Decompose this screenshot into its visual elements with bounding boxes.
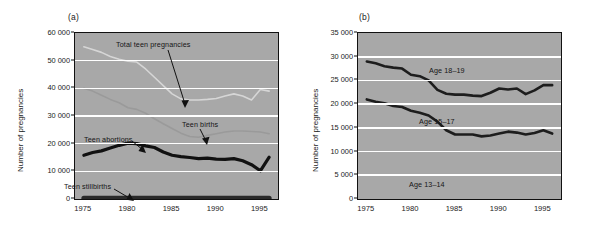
- y-tick-mark: [354, 79, 357, 80]
- x-tick-label: 1975: [74, 204, 91, 213]
- y-tick-mark: [71, 170, 74, 171]
- annotation-age-15-17: Age 15–17: [419, 117, 455, 126]
- y-tick-label: 25 000: [330, 75, 353, 84]
- y-tick-mark: [71, 115, 74, 116]
- chart-panel-a: (a) Number of pregnancies 010 00020 0003…: [0, 0, 297, 229]
- panel-b-y-axis-label: Number of pregnancies: [311, 89, 320, 172]
- y-tick-label: 20 000: [47, 138, 70, 147]
- annotation-teen-abortions: Teen abortions: [84, 135, 133, 144]
- y-tick-label: 30 000: [330, 51, 353, 60]
- y-tick-mark: [71, 198, 74, 199]
- y-tick-mark: [354, 126, 357, 127]
- y-tick-mark: [354, 174, 357, 175]
- panel-b-tag: (b): [359, 12, 370, 22]
- panel-a-plot-area: [74, 32, 279, 200]
- y-tick-mark: [354, 32, 357, 33]
- gridline: [358, 80, 561, 82]
- y-tick-label: 5 000: [335, 170, 354, 179]
- gridline: [75, 115, 278, 117]
- x-tick-label: 1980: [402, 204, 419, 213]
- gridline: [75, 88, 278, 90]
- panel-a-tag: (a): [68, 12, 79, 22]
- y-tick-label: 0: [349, 194, 353, 203]
- y-tick-label: 30 000: [47, 111, 70, 120]
- annotation-teen-stillbirths: Teen stillbirths: [64, 182, 111, 191]
- annotation-teen-births: Teen births: [182, 120, 218, 129]
- y-tick-label: 40 000: [47, 83, 70, 92]
- gridline: [75, 60, 278, 62]
- gridline: [75, 171, 278, 173]
- y-tick-label: 0: [66, 194, 70, 203]
- annotation-age-18-19: Age 18–19: [429, 66, 465, 75]
- x-tick-label: 1990: [207, 204, 224, 213]
- panel-a-y-axis-label: Number of pregnancies: [16, 89, 25, 172]
- x-tick-label: 1990: [490, 204, 507, 213]
- y-tick-mark: [354, 55, 357, 56]
- x-tick-label: 1975: [357, 204, 374, 213]
- x-tick-label: 1995: [251, 204, 268, 213]
- y-tick-label: 10 000: [330, 146, 353, 155]
- x-tick-label: 1985: [446, 204, 463, 213]
- chart-panel-b: (b) Number of pregnancies 05 00010 00015…: [297, 0, 594, 229]
- annotation-total-teen-pregnancies: Total teen pregnancies: [116, 40, 191, 49]
- panel-b-plot-area: [357, 32, 562, 200]
- y-tick-label: 20 000: [330, 99, 353, 108]
- gridline: [358, 56, 561, 58]
- y-tick-label: 10 000: [47, 166, 70, 175]
- series-line-age-15-17: [367, 99, 552, 136]
- y-tick-mark: [354, 103, 357, 104]
- gridline: [358, 174, 561, 176]
- y-tick-label: 50 000: [47, 55, 70, 64]
- figure-container: (a) Number of pregnancies 010 00020 0003…: [0, 0, 594, 229]
- x-tick-label: 1985: [163, 204, 180, 213]
- y-tick-mark: [71, 87, 74, 88]
- gridline: [358, 127, 561, 129]
- y-tick-mark: [354, 150, 357, 151]
- y-tick-label: 35 000: [330, 28, 353, 37]
- series-line-teen-abortions: [84, 143, 269, 171]
- series-line-total-teen-pregnancies: [84, 47, 269, 100]
- y-tick-mark: [71, 32, 74, 33]
- gridline: [358, 151, 561, 153]
- x-tick-label: 1980: [119, 204, 136, 213]
- y-tick-label: 60 000: [47, 28, 70, 37]
- gridline: [358, 103, 561, 105]
- y-tick-mark: [354, 198, 357, 199]
- y-tick-mark: [71, 59, 74, 60]
- x-tick-label: 1995: [534, 204, 551, 213]
- y-tick-label: 15 000: [330, 122, 353, 131]
- annotation-age-13-14: Age 13–14: [409, 180, 445, 189]
- y-tick-mark: [71, 142, 74, 143]
